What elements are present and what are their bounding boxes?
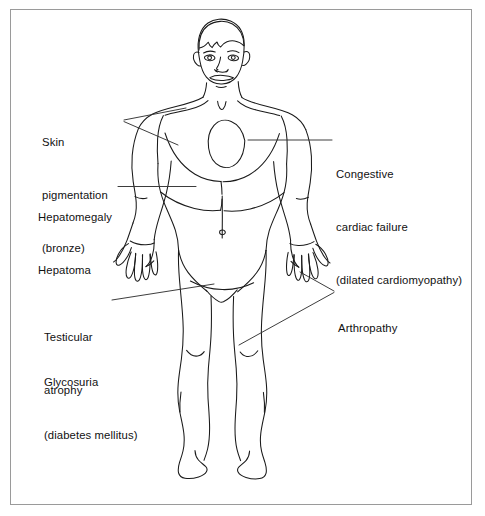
flank-left <box>158 164 179 250</box>
label-glycosuria: Glycosuria (diabetes mellitus) <box>44 339 138 480</box>
arm-inner-right <box>274 162 291 241</box>
label-arthropathy: Arthropathy <box>338 285 398 373</box>
label-congestive-line-2: cardiac failure <box>336 219 462 237</box>
hip-left <box>179 250 207 291</box>
hand-right <box>287 224 330 282</box>
brow-left <box>204 51 216 53</box>
label-congestive-line-1: Congestive <box>336 166 462 184</box>
leader-arthropathy-knee <box>239 293 334 346</box>
flank-right <box>266 164 287 250</box>
knee-left <box>187 350 205 356</box>
leader-skin-upper <box>124 108 186 120</box>
leg-inner-right <box>233 296 240 460</box>
label-glycosuria-line-1: Glycosuria <box>44 374 138 392</box>
leader-testicular <box>112 284 214 300</box>
pectoral-left <box>165 133 221 181</box>
calf-left <box>180 392 181 412</box>
label-hepatomegaly-line-2: Hepatoma <box>38 262 112 280</box>
sternal-notch <box>218 101 226 109</box>
sternum-lower <box>221 181 222 194</box>
brow-right <box>228 51 239 53</box>
costal-margin-left <box>161 192 221 211</box>
eye-right <box>228 55 238 61</box>
costal-margin-right <box>224 193 284 212</box>
label-glycosuria-line-2: (diabetes mellitus) <box>44 427 138 445</box>
shoulder-left <box>138 97 203 128</box>
pectoral-right <box>223 134 279 182</box>
leg-inner-left <box>204 296 211 460</box>
chin-crease <box>216 86 226 87</box>
leader-lines <box>112 108 334 345</box>
eye-left <box>204 55 214 61</box>
hand-left <box>114 223 158 281</box>
hip-right <box>238 250 266 291</box>
inguinal-crease <box>190 281 253 290</box>
nose <box>215 57 229 72</box>
calf-right <box>263 392 264 412</box>
elbow-left <box>135 197 147 199</box>
arm-outer-right <box>306 130 312 224</box>
arm-outer-left <box>132 129 139 223</box>
leg-outer-right <box>238 250 267 479</box>
label-hepatomegaly-line-1: Hepatomegaly <box>38 209 112 227</box>
leader-skin-lower <box>124 122 178 145</box>
axilla-left <box>157 116 163 164</box>
label-arthropathy-line-1: Arthropathy <box>338 320 398 338</box>
diagram-page: Skin pigmentation (bronze) Hepatomegaly … <box>0 0 485 516</box>
elbow-right <box>296 197 308 199</box>
label-skin-pigmentation-line-1: Skin <box>42 134 108 152</box>
mouth <box>210 75 234 80</box>
leg-outer-left <box>178 250 207 479</box>
heart-outline <box>208 120 245 167</box>
knee-right <box>240 351 258 357</box>
